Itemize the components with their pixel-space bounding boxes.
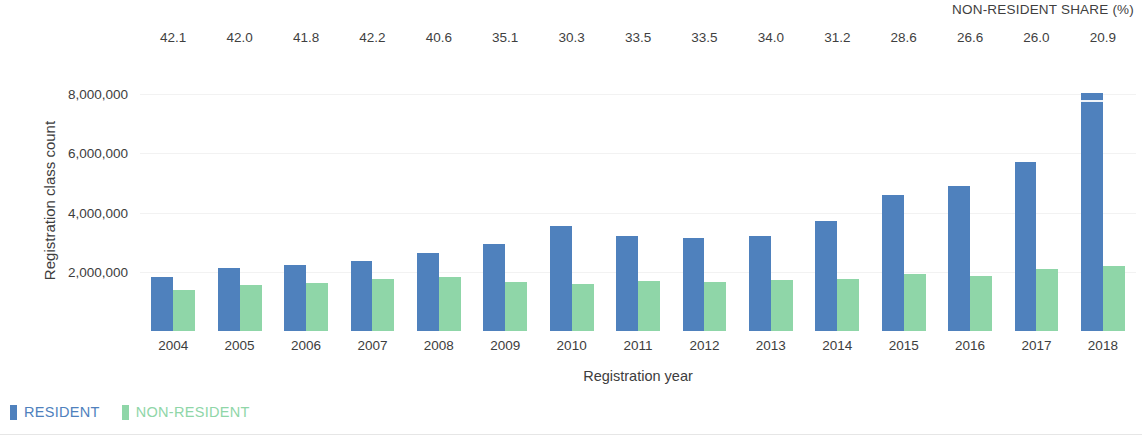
- x-axis-tick-label: 2011: [605, 338, 671, 353]
- non-resident-share-value: 28.6: [870, 30, 936, 50]
- y-axis-tick-label: 2,000,000: [18, 264, 128, 279]
- bar-nonresident: [372, 279, 394, 331]
- non-resident-share-value: 26.0: [1003, 30, 1069, 50]
- bar-nonresident: [904, 274, 926, 331]
- non-resident-share-value: 20.9: [1070, 30, 1136, 50]
- bar-resident: [815, 221, 837, 331]
- non-resident-share-value: 42.0: [206, 30, 272, 50]
- bar-resident: [417, 253, 439, 331]
- bar-resident: [948, 186, 970, 331]
- bar-resident: [683, 238, 705, 331]
- x-axis-tick-label: 2007: [339, 338, 405, 353]
- bar-resident: [483, 244, 505, 331]
- bar-group: [273, 60, 339, 331]
- chart-figure: NON-RESIDENT SHARE (%) 42.142.041.842.24…: [0, 0, 1142, 437]
- y-axis-tick-label: 8,000,000: [18, 87, 128, 102]
- plot-area: [140, 60, 1136, 331]
- x-axis-tick-labels: 2004200520062007200820092010201120122013…: [140, 338, 1136, 353]
- bottom-divider: [0, 434, 1142, 435]
- legend-item-nonresident: NON-RESIDENT: [122, 404, 250, 420]
- non-resident-share-value: 34.0: [738, 30, 804, 50]
- bar-resident: [749, 236, 771, 331]
- non-resident-share-value: 33.5: [671, 30, 737, 50]
- non-resident-share-value: 42.2: [339, 30, 405, 50]
- bar-nonresident: [240, 285, 262, 331]
- legend-label-nonresident: NON-RESIDENT: [136, 404, 250, 420]
- bar-nonresident: [572, 284, 594, 331]
- bar-group: [738, 60, 804, 331]
- bar-resident: [882, 195, 904, 331]
- bar-nonresident: [173, 290, 195, 331]
- bar-nonresident: [439, 277, 461, 331]
- bar-group: [671, 60, 737, 331]
- scan-artifact: [1081, 100, 1103, 102]
- bar-nonresident: [771, 280, 793, 331]
- legend-swatch-resident-icon: [10, 405, 17, 420]
- non-resident-share-value: 35.1: [472, 30, 538, 50]
- y-axis-tick-label: 4,000,000: [18, 205, 128, 220]
- bar-group: [538, 60, 604, 331]
- bar-resident: [1015, 162, 1037, 331]
- bar-group: [804, 60, 870, 331]
- bar-nonresident: [306, 283, 328, 331]
- bar-nonresident: [1103, 266, 1125, 331]
- non-resident-share-value: 26.6: [937, 30, 1003, 50]
- non-resident-share-value: 42.1: [140, 30, 206, 50]
- bar-nonresident: [970, 276, 992, 331]
- x-axis-title: Registration year: [140, 368, 1136, 384]
- non-resident-share-header: NON-RESIDENT SHARE (%): [952, 2, 1134, 17]
- bar-nonresident: [638, 281, 660, 331]
- non-resident-share-row: 42.142.041.842.240.635.130.333.533.534.0…: [140, 30, 1136, 50]
- bar-group: [472, 60, 538, 331]
- x-axis-tick-label: 2006: [273, 338, 339, 353]
- bar-group: [206, 60, 272, 331]
- x-axis-tick-label: 2012: [671, 338, 737, 353]
- bar-group: [406, 60, 472, 331]
- bar-resident: [218, 268, 240, 331]
- bar-resident: [1081, 93, 1103, 331]
- bar-resident: [351, 261, 373, 331]
- x-axis-tick-label: 2018: [1070, 338, 1136, 353]
- y-axis-title: Registration class count: [41, 76, 58, 326]
- bar-nonresident: [704, 282, 726, 331]
- legend-label-resident: RESIDENT: [24, 404, 100, 420]
- non-resident-share-value: 30.3: [538, 30, 604, 50]
- bar-group: [1003, 60, 1069, 331]
- non-resident-share-value: 40.6: [406, 30, 472, 50]
- non-resident-share-value: 41.8: [273, 30, 339, 50]
- bar-group: [605, 60, 671, 331]
- x-axis-tick-label: 2015: [870, 338, 936, 353]
- bar-nonresident: [505, 282, 527, 331]
- y-axis-tick-label: 6,000,000: [18, 146, 128, 161]
- bar-groups: [140, 60, 1136, 331]
- x-axis-tick-label: 2014: [804, 338, 870, 353]
- bar-nonresident: [1036, 269, 1058, 331]
- bar-resident: [151, 277, 173, 331]
- x-axis-tick-label: 2009: [472, 338, 538, 353]
- bar-group: [1070, 60, 1136, 331]
- bar-resident: [616, 236, 638, 331]
- x-axis-tick-label: 2008: [406, 338, 472, 353]
- non-resident-share-value: 31.2: [804, 30, 870, 50]
- chart-legend: RESIDENT NON-RESIDENT: [10, 404, 250, 420]
- legend-swatch-nonresident-icon: [122, 405, 129, 420]
- bar-resident: [284, 265, 306, 331]
- x-axis-tick-label: 2017: [1003, 338, 1069, 353]
- bar-nonresident: [837, 279, 859, 331]
- legend-item-resident: RESIDENT: [10, 404, 100, 420]
- bar-group: [140, 60, 206, 331]
- non-resident-share-value: 33.5: [605, 30, 671, 50]
- bar-group: [339, 60, 405, 331]
- bar-group: [937, 60, 1003, 331]
- x-axis-tick-label: 2004: [140, 338, 206, 353]
- bar-group: [870, 60, 936, 331]
- x-axis-tick-label: 2016: [937, 338, 1003, 353]
- x-axis-tick-label: 2005: [206, 338, 272, 353]
- x-axis-tick-label: 2013: [738, 338, 804, 353]
- bar-resident: [550, 226, 572, 331]
- x-axis-tick-label: 2010: [538, 338, 604, 353]
